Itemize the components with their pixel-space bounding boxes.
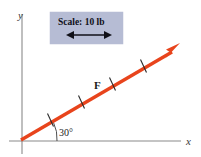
y-axis-label: y [17, 9, 23, 21]
x-axis-label: x [185, 135, 191, 147]
force-vector-shaft [21, 52, 172, 140]
scale-box-text: Scale: 10 lb [58, 17, 104, 27]
force-vector-arrowhead [165, 43, 180, 59]
force-vector-diagram: y x 30° F Scale: 10 lb [0, 0, 201, 157]
force-vector-label: F [94, 79, 101, 91]
angle-arc [54, 123, 58, 142]
angle-label: 30° [59, 127, 73, 138]
